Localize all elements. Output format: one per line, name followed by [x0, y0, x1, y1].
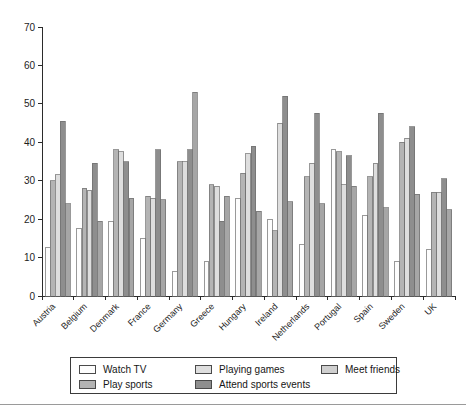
bar — [124, 162, 129, 297]
chart-legend: Watch TVPlaying gamesMeet friendsPlay sp… — [70, 357, 397, 394]
legend-item[interactable]: Watch TV — [79, 364, 195, 375]
bar — [315, 113, 320, 296]
x-axis-category-label: Portugal — [312, 301, 343, 332]
bar — [447, 210, 452, 296]
bar — [214, 186, 219, 296]
x-axis-category-label: Greece — [188, 301, 216, 329]
legend-item[interactable]: Meet friends — [321, 364, 400, 375]
legend-swatch — [321, 365, 338, 374]
bar — [45, 248, 50, 296]
bar — [395, 261, 400, 296]
x-axis-category-label: Austria — [30, 301, 57, 328]
x-axis-category-label: France — [126, 301, 153, 328]
x-axis-category-label: Sweden — [377, 301, 407, 331]
bar — [60, 121, 65, 296]
bar — [283, 96, 288, 296]
y-axis-tick-label: 20 — [24, 214, 36, 225]
bar — [268, 219, 273, 296]
bar — [188, 150, 193, 296]
bar — [373, 163, 378, 296]
x-axis-category-label: Belgium — [59, 301, 89, 331]
x-axis-category-label: UK — [423, 301, 439, 317]
bar — [87, 190, 92, 296]
legend-label: Playing games — [219, 364, 285, 375]
legend-swatch — [79, 380, 96, 389]
legend-item[interactable]: Play sports — [79, 379, 195, 390]
y-axis-tick-label: 40 — [24, 137, 36, 148]
y-axis-tick-label: 30 — [24, 175, 36, 186]
bar — [431, 192, 436, 296]
bar — [437, 192, 442, 296]
bar — [92, 163, 97, 296]
bar — [346, 156, 351, 296]
bar — [236, 198, 241, 296]
bar — [204, 261, 209, 296]
bar — [304, 177, 309, 296]
bar — [410, 127, 415, 296]
bar — [400, 142, 405, 296]
bar — [320, 204, 325, 296]
bar — [55, 175, 60, 296]
x-axis-category-label: Denmark — [88, 301, 121, 334]
bar — [77, 229, 82, 296]
bar — [288, 202, 293, 296]
bar — [246, 154, 251, 296]
legend-swatch — [195, 365, 212, 374]
bar — [299, 244, 304, 296]
bar — [415, 194, 420, 296]
bar — [442, 179, 447, 296]
bar — [278, 123, 283, 296]
bar — [336, 152, 341, 296]
bar — [241, 173, 246, 296]
bar — [129, 198, 134, 296]
bar — [193, 92, 198, 296]
bottom-divider — [0, 404, 466, 405]
bar — [341, 185, 346, 296]
bar — [256, 211, 261, 296]
bar — [50, 181, 55, 296]
bar — [209, 185, 214, 296]
bar — [224, 196, 229, 296]
bar — [219, 221, 224, 296]
y-axis-tick-label: 0 — [29, 291, 35, 302]
legend-label: Attend sports events — [219, 379, 310, 390]
bar — [146, 196, 151, 296]
legend-label: Play sports — [103, 379, 152, 390]
grouped-bar-chart: 010203040506070AustriaBelgiumDenmarkFran… — [0, 0, 466, 355]
x-axis-category-label: Spain — [352, 301, 375, 324]
bar — [273, 231, 278, 296]
legend-grid: Watch TVPlaying gamesMeet friendsPlay sp… — [79, 362, 391, 391]
legend-label: Watch TV — [103, 364, 146, 375]
bar — [368, 177, 373, 296]
bar — [156, 150, 161, 296]
legend-label: Meet friends — [345, 364, 400, 375]
bar — [119, 152, 124, 296]
y-axis-tick-label: 10 — [24, 252, 36, 263]
legend-swatch — [195, 380, 212, 389]
bar — [66, 204, 71, 296]
bar — [161, 200, 166, 296]
bar — [351, 186, 356, 296]
bar — [363, 215, 368, 296]
y-axis-tick-label: 70 — [24, 22, 36, 33]
bar — [331, 150, 336, 296]
legend-swatch — [79, 365, 96, 374]
bar — [405, 138, 410, 296]
bar — [82, 188, 87, 296]
legend-item[interactable]: Attend sports events — [195, 379, 321, 390]
bar — [172, 271, 177, 296]
bar — [151, 198, 156, 296]
bar — [97, 221, 102, 296]
bar — [114, 150, 119, 296]
bar — [182, 162, 187, 297]
x-axis-category-label: Germany — [151, 301, 185, 335]
bar — [109, 221, 114, 296]
y-axis-tick-label: 50 — [24, 98, 36, 109]
bar — [310, 163, 315, 296]
bar — [426, 250, 431, 296]
y-axis-tick-label: 60 — [24, 60, 36, 71]
bar — [378, 113, 383, 296]
bar — [251, 146, 256, 296]
legend-item[interactable]: Playing games — [195, 364, 321, 375]
chart-container: 010203040506070AustriaBelgiumDenmarkFran… — [0, 0, 466, 413]
